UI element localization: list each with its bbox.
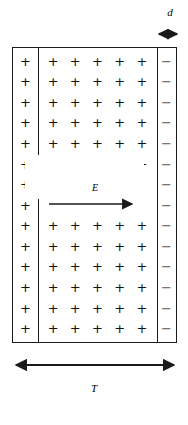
charge-plus: + (45, 96, 61, 109)
electric-field-arrow (48, 198, 140, 210)
charge-plus: + (67, 96, 83, 109)
charge-plus: + (45, 116, 61, 129)
charge-plus: + (112, 260, 128, 273)
charge-plus: + (67, 281, 83, 294)
charge-plus: + (18, 302, 34, 315)
charge-plus: + (18, 199, 34, 212)
charge-plus: + (18, 75, 34, 88)
charge-plus: + (45, 260, 61, 273)
charge-plus: + (89, 116, 105, 129)
charge-plus: + (18, 219, 34, 232)
charge-plus: + (89, 302, 105, 315)
charge-plus: + (112, 322, 128, 335)
field-arrow-clear-band (25, 155, 144, 199)
charge-plus: + (67, 116, 83, 129)
charge-plus: + (112, 55, 128, 68)
charge-plus: + (67, 240, 83, 253)
charge-plus: + (89, 96, 105, 109)
grid-row: + + + + + (42, 75, 153, 88)
charge-plus: + (134, 281, 150, 294)
charge-plus: + (45, 75, 61, 88)
charge-plus: + (89, 322, 105, 335)
grid-row: + + + + + (42, 322, 153, 335)
charge-plus: + (45, 219, 61, 232)
charge-minus: − (159, 260, 175, 273)
charge-plus: + (18, 116, 34, 129)
grid-row: + + + + + (42, 116, 153, 129)
charge-plus: + (18, 55, 34, 68)
charge-plus: + (45, 240, 61, 253)
charge-plus: + (112, 240, 128, 253)
charge-plus: + (134, 75, 150, 88)
right-negative-strip: − − − − − − − − − − − − − − (157, 48, 176, 342)
charge-plus: + (18, 137, 34, 150)
charge-plus: + (112, 219, 128, 232)
charge-plus: + (45, 281, 61, 294)
charge-plus: + (45, 302, 61, 315)
charge-plus: + (134, 55, 150, 68)
charge-plus: + (89, 281, 105, 294)
charge-plus: + (67, 219, 83, 232)
depletion-width-arrow (155, 26, 181, 42)
charge-minus: − (159, 178, 175, 191)
charge-plus: + (134, 137, 150, 150)
charge-plus: + (18, 96, 34, 109)
charge-minus: − (159, 219, 175, 232)
charge-plus: + (134, 116, 150, 129)
grid-row: + + + + + (42, 281, 153, 294)
charge-plus: + (67, 55, 83, 68)
charge-plus: + (134, 260, 150, 273)
total-thickness-arrow (8, 356, 182, 374)
charge-plus: + (67, 75, 83, 88)
charge-minus: − (159, 302, 175, 315)
charge-minus: − (159, 116, 175, 129)
charge-minus: − (159, 137, 175, 150)
grid-row: + + + + + (42, 219, 153, 232)
charge-plus: + (89, 55, 105, 68)
charge-plus: + (18, 322, 34, 335)
charge-minus: − (159, 55, 175, 68)
charge-plus: + (89, 219, 105, 232)
charge-plus: + (67, 137, 83, 150)
charge-plus: + (67, 260, 83, 273)
d-label: d (160, 6, 180, 18)
grid-row: + + + + + (42, 302, 153, 315)
grid-row: + + + + + (42, 96, 153, 109)
charge-minus: − (159, 281, 175, 294)
electric-field-label: E (88, 182, 102, 193)
charge-plus: + (45, 322, 61, 335)
charge-minus: − (159, 75, 175, 88)
charge-plus: + (18, 240, 34, 253)
charge-plus: + (112, 75, 128, 88)
charge-plus: + (45, 137, 61, 150)
charge-plus: + (18, 281, 34, 294)
charge-plus: + (134, 240, 150, 253)
charge-plus: + (134, 322, 150, 335)
charge-plus: + (112, 116, 128, 129)
charge-plus: + (112, 96, 128, 109)
grid-row: + + + + + (42, 240, 153, 253)
charge-plus: + (134, 219, 150, 232)
charge-plus: + (89, 260, 105, 273)
charge-minus: − (159, 240, 175, 253)
charge-plus: + (89, 75, 105, 88)
charge-plus: + (112, 302, 128, 315)
total-thickness-label: T (0, 382, 188, 394)
charge-plus: + (67, 322, 83, 335)
grid-row: + + + + + (42, 260, 153, 273)
charge-minus: − (159, 96, 175, 109)
charge-minus: − (159, 199, 175, 212)
charge-plus: + (89, 137, 105, 150)
charge-plus: + (89, 240, 105, 253)
charge-plus: + (18, 260, 34, 273)
grid-row: + + + + + (42, 55, 153, 68)
charge-plus: + (134, 96, 150, 109)
charge-minus: − (159, 158, 175, 171)
charge-plus: + (112, 281, 128, 294)
grid-row: + + + + + (42, 137, 153, 150)
charge-plus: + (112, 137, 128, 150)
diagram-canvas: d + + + + + + + + + + + + + (0, 0, 188, 425)
charge-plus: + (67, 302, 83, 315)
charge-minus: − (159, 322, 175, 335)
charge-plus: + (134, 302, 150, 315)
